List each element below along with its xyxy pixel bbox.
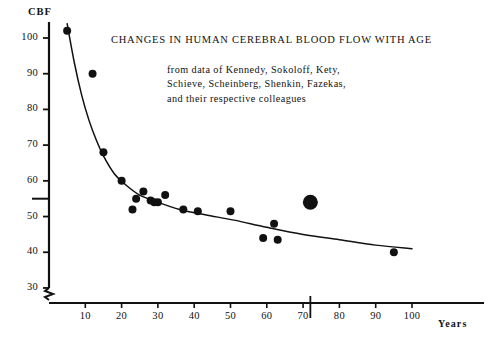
x-axis-label: Years [438, 318, 467, 329]
chart-caption: from data of Kennedy, Sokoloff, Kety, Sc… [167, 63, 346, 106]
data-point-3 [118, 177, 126, 185]
data-point-6 [139, 188, 147, 196]
data-point-11 [179, 205, 187, 213]
x-tick-label-90: 90 [363, 310, 389, 321]
y-tick-label-70: 70 [12, 138, 38, 149]
data-point-0 [63, 27, 71, 35]
x-tick-label-40: 40 [181, 310, 207, 321]
data-point-2 [99, 148, 107, 156]
page-title: CHANGES IN HUMAN CEREBRAL BLOOD FLOW WIT… [111, 34, 432, 45]
data-point-12 [194, 207, 202, 215]
data-point-15 [270, 220, 278, 228]
data-point-9 [154, 198, 162, 206]
cbf-age-figure: CHANGES IN HUMAN CEREBRAL BLOOD FLOW WIT… [0, 0, 490, 353]
data-point-17 [303, 195, 318, 210]
caption-line-1: from data of Kennedy, Sokoloff, Kety, [167, 63, 346, 77]
x-tick-label-100: 100 [399, 310, 425, 321]
y-tick-label-40: 40 [12, 245, 38, 256]
y-tick-label-50: 50 [12, 210, 38, 221]
x-tick-label-70: 70 [290, 310, 316, 321]
x-tick-label-80: 80 [326, 310, 352, 321]
x-tick-label-60: 60 [254, 310, 280, 321]
data-point-4 [128, 205, 136, 213]
y-tick-label-90: 90 [12, 67, 38, 78]
y-tick-label-100: 100 [12, 31, 38, 42]
y-axis-label: CBF [28, 6, 52, 17]
x-tick-label-20: 20 [109, 310, 135, 321]
data-point-14 [259, 234, 267, 242]
y-tick-label-80: 80 [12, 102, 38, 113]
y-tick-label-60: 60 [12, 174, 38, 185]
data-point-5 [132, 195, 140, 203]
x-tick-label-10: 10 [72, 310, 98, 321]
y-axis-break-zigzag [45, 288, 53, 300]
data-point-1 [89, 70, 97, 78]
caption-line-3: and their respective colleagues [167, 92, 346, 106]
y-tick-label-30: 30 [12, 281, 38, 292]
data-point-18 [390, 248, 398, 256]
data-point-13 [227, 207, 235, 215]
caption-line-2: Schieve, Scheinberg, Shenkin, Fazekas, [167, 77, 346, 91]
data-point-10 [161, 191, 169, 199]
x-tick-label-50: 50 [218, 310, 244, 321]
fitted-decline-curve [67, 24, 412, 249]
data-point-16 [274, 236, 282, 244]
chart-plot-area [0, 0, 490, 353]
x-tick-label-30: 30 [145, 310, 171, 321]
